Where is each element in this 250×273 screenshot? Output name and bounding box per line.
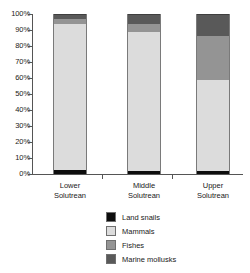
- bar-column: [53, 14, 87, 174]
- x-label-middle-solutrean: Middle Solutrean: [109, 181, 179, 200]
- x-label-line1: Lower: [35, 181, 105, 191]
- x-label-line1: Middle: [109, 181, 179, 191]
- legend-label-fishes: Fishes: [122, 241, 144, 250]
- legend-item-land-snails[interactable]: Land snails: [106, 210, 246, 224]
- x-label-line2: Solutrean: [178, 191, 248, 201]
- y-axis-line: [32, 14, 33, 175]
- x-label-line2: Solutrean: [35, 191, 105, 201]
- y-tick-label-20: 20%: [0, 138, 30, 146]
- segment-fishes: [128, 24, 160, 31]
- segment-mammals: [128, 32, 160, 171]
- legend-item-marine-mollusks[interactable]: Marine mollusks: [106, 252, 246, 266]
- y-tick-label-100: 100%: [0, 10, 30, 18]
- segment-mammals: [54, 24, 86, 170]
- legend-swatch-land-snails: [106, 212, 116, 222]
- x-label-line2: Solutrean: [109, 191, 179, 201]
- bar-middle-solutrean[interactable]: [127, 14, 161, 174]
- x-label-line1: Upper: [178, 181, 248, 191]
- x-label-upper-solutrean: Upper Solutrean: [178, 181, 248, 200]
- segment-land-snails: [128, 171, 160, 174]
- y-tick-label-50: 50%: [0, 90, 30, 98]
- x-tick-mark-1: [102, 175, 103, 179]
- y-tick-label-10: 10%: [0, 154, 30, 162]
- legend-item-fishes[interactable]: Fishes: [106, 238, 246, 252]
- segment-marine-mollusks: [197, 14, 229, 36]
- y-tick-label-30: 30%: [0, 122, 30, 130]
- legend-swatch-mammals: [106, 226, 116, 236]
- bar-upper-solutrean[interactable]: [196, 14, 230, 174]
- segment-mammals: [197, 80, 229, 170]
- y-tick-label-80: 80%: [0, 42, 30, 50]
- y-tick-label-40: 40%: [0, 106, 30, 114]
- x-axis-line: [32, 174, 243, 175]
- stacked-bar-chart: 100% 90% 80% 70% 60% 50% 40% 30% 20% 10%…: [0, 0, 250, 273]
- legend-swatch-marine-mollusks: [106, 254, 116, 264]
- segment-fishes: [197, 36, 229, 80]
- segment-marine-mollusks: [128, 14, 160, 24]
- bar-column: [127, 14, 161, 174]
- y-tick-label-90: 90%: [0, 26, 30, 34]
- segment-land-snails: [197, 171, 229, 174]
- bar-lower-solutrean[interactable]: [53, 14, 87, 174]
- x-tick-mark-2: [172, 175, 173, 179]
- legend-label-land-snails: Land snails: [122, 213, 160, 222]
- x-label-lower-solutrean: Lower Solutrean: [35, 181, 105, 200]
- y-tick-label-0: 0%: [0, 170, 30, 178]
- segment-land-snails: [54, 170, 86, 174]
- y-tick-label-70: 70%: [0, 58, 30, 66]
- legend-label-marine-mollusks: Marine mollusks: [122, 255, 176, 264]
- y-axis-labels: 100% 90% 80% 70% 60% 50% 40% 30% 20% 10%…: [0, 8, 30, 180]
- bar-column: [196, 14, 230, 174]
- legend-swatch-fishes: [106, 240, 116, 250]
- legend-label-mammals: Mammals: [122, 227, 155, 236]
- legend: Land snails Mammals Fishes Marine mollus…: [106, 210, 246, 266]
- legend-item-mammals[interactable]: Mammals: [106, 224, 246, 238]
- y-tick-label-60: 60%: [0, 74, 30, 82]
